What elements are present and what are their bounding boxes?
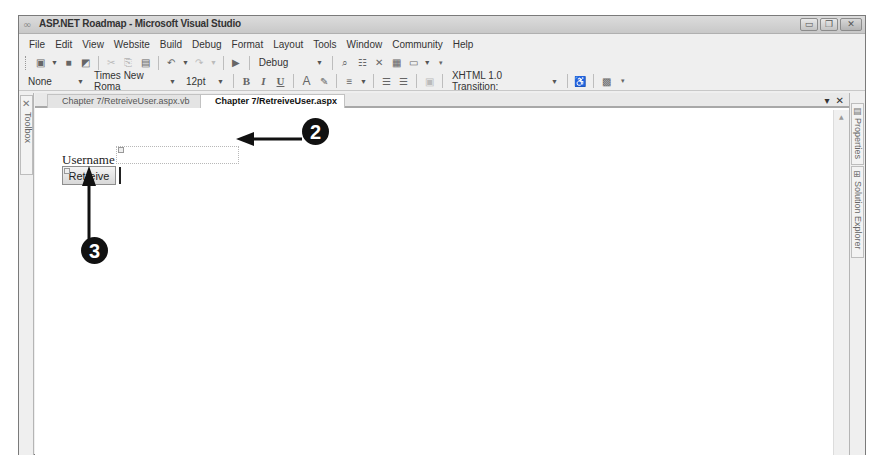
block-format-value: None <box>28 76 52 87</box>
menu-file[interactable]: File <box>29 39 45 50</box>
separator <box>98 56 99 70</box>
close-tab-icon[interactable]: ✕ <box>836 95 844 106</box>
properties-tab[interactable]: ▤ Properties <box>851 103 864 165</box>
properties-icon[interactable]: ☷ <box>356 56 369 69</box>
chevron-down-icon: ▼ <box>316 59 323 66</box>
solution-explorer-tab[interactable]: ⊞ Solution Explorer <box>851 166 864 258</box>
chevron-down-icon[interactable]: ▼ <box>51 59 58 66</box>
document-area: Chapter 7/RetreiveUser.aspx.vb Chapter 7… <box>35 93 850 455</box>
new-project-icon[interactable]: ▣ <box>34 56 47 69</box>
retrieve-button-label: Retreive <box>69 170 110 182</box>
numbered-list-icon[interactable]: ☰ <box>397 75 410 88</box>
scroll-up-icon[interactable]: ▲ <box>839 113 844 120</box>
separator <box>373 74 374 88</box>
separator <box>332 56 333 70</box>
chevron-down-icon[interactable]: ▼ <box>360 78 367 85</box>
font-color-icon[interactable]: A <box>300 75 313 88</box>
minimize-button[interactable]: ▭ <box>800 18 818 31</box>
menu-help[interactable]: Help <box>453 39 474 50</box>
menu-community[interactable]: Community <box>392 39 443 50</box>
toolbox-icon[interactable]: ✕ <box>373 56 386 69</box>
block-format-dropdown[interactable]: None ▼ <box>25 74 87 88</box>
separator <box>336 74 337 88</box>
bold-button[interactable]: B <box>240 75 253 88</box>
toolbar-overflow-icon[interactable]: ▾ <box>435 56 448 69</box>
redo-icon[interactable]: ↷ <box>193 56 206 69</box>
solution-config-value: Debug <box>259 57 288 68</box>
separator <box>416 74 417 88</box>
italic-button[interactable]: I <box>257 75 270 88</box>
font-size-value: 12pt <box>186 76 205 87</box>
window-icon[interactable]: ▭ <box>407 56 420 69</box>
object-browser-icon[interactable]: ▦ <box>390 56 403 69</box>
right-dock-panel: ▤ Properties ⊞ Solution Explorer <box>849 93 865 455</box>
solution-explorer-icon: ⊞ <box>853 169 861 179</box>
separator <box>293 74 294 88</box>
chevron-down-icon: ▼ <box>217 78 224 85</box>
document-tabstrip: Chapter 7/RetreiveUser.aspx.vb Chapter 7… <box>35 93 850 108</box>
username-textbox[interactable] <box>116 146 239 164</box>
separator <box>158 56 159 70</box>
separator <box>567 74 568 88</box>
toolbar-grip[interactable] <box>25 56 28 70</box>
properties-label: Properties <box>853 118 863 159</box>
undo-icon[interactable]: ↶ <box>165 56 178 69</box>
tab-retrieveuser-aspx[interactable]: Chapter 7/RetreiveUser.aspx <box>200 94 345 108</box>
check-accessibility-icon[interactable]: ♿ <box>574 75 587 88</box>
retrieve-button[interactable]: Retreive <box>62 166 116 185</box>
paste-icon[interactable]: ▤ <box>139 56 152 69</box>
separator <box>223 56 224 70</box>
underline-button[interactable]: U <box>274 75 287 88</box>
separator <box>233 74 234 88</box>
font-size-dropdown[interactable]: 12pt ▼ <box>183 74 227 88</box>
formatting-toolbar: None ▼ Times New Roma ▼ 12pt ▼ B I U A ✎… <box>19 72 865 91</box>
chevron-down-icon[interactable]: ▼ <box>210 59 217 66</box>
callout-step-3: 3 <box>81 237 108 264</box>
font-name-dropdown[interactable]: Times New Roma ▼ <box>91 74 179 88</box>
callout-step-2: 2 <box>302 118 329 145</box>
bullet-list-icon[interactable]: ☰ <box>380 75 393 88</box>
close-button[interactable]: ✕ <box>840 18 862 31</box>
menu-debug[interactable]: Debug <box>192 39 221 50</box>
highlight-icon[interactable]: ✎ <box>317 75 330 88</box>
design-surface[interactable]: Username Retreive <box>35 110 833 455</box>
tab-list-dropdown-icon[interactable]: ▾ <box>825 95 830 106</box>
menu-build[interactable]: Build <box>160 39 182 50</box>
menu-format[interactable]: Format <box>232 39 264 50</box>
menu-layout[interactable]: Layout <box>273 39 303 50</box>
validate-icon[interactable]: ▩ <box>600 75 613 88</box>
copy-icon[interactable]: ⎘ <box>122 56 135 69</box>
menu-website[interactable]: Website <box>114 39 150 50</box>
solution-config-dropdown[interactable]: Debug ▼ <box>256 56 326 70</box>
chevron-down-icon: ▼ <box>77 78 84 85</box>
vs-window: ∞ ASP.NET Roadmap - Microsoft Visual Stu… <box>18 15 866 455</box>
chevron-down-icon[interactable]: ▼ <box>424 59 431 66</box>
maximize-button[interactable]: ❐ <box>820 18 838 31</box>
save-icon[interactable]: ■ <box>62 56 75 69</box>
text-caret <box>119 167 121 184</box>
control-glyph-icon <box>64 168 70 174</box>
tab-retrieveuser-vb[interactable]: Chapter 7/RetreiveUser.aspx.vb <box>47 94 202 108</box>
cut-icon[interactable]: ✂ <box>105 56 118 69</box>
menu-window[interactable]: Window <box>347 39 383 50</box>
menu-view[interactable]: View <box>82 39 104 50</box>
chevron-down-icon[interactable]: ▼ <box>182 59 189 66</box>
save-all-icon[interactable]: ◩ <box>79 56 92 69</box>
style-icon[interactable]: ▣ <box>423 75 436 88</box>
doctype-value: XHTML 1.0 Transition: <box>452 70 551 92</box>
start-debug-icon[interactable]: ▶ <box>230 56 243 69</box>
find-icon[interactable]: ⌕ <box>339 56 352 69</box>
toolbox-label: Toolbox <box>23 112 33 143</box>
toolbar-overflow-icon[interactable]: ▾ <box>617 75 630 88</box>
title-bar: ∞ ASP.NET Roadmap - Microsoft Visual Stu… <box>19 16 865 34</box>
doctype-dropdown[interactable]: XHTML 1.0 Transition: ▼ <box>449 74 561 88</box>
menu-edit[interactable]: Edit <box>55 39 72 50</box>
vertical-scrollbar[interactable]: ▲ <box>833 110 850 455</box>
align-icon[interactable]: ≡ <box>343 75 356 88</box>
menu-tools[interactable]: Tools <box>313 39 336 50</box>
control-glyph-icon <box>118 147 124 153</box>
chevron-down-icon: ▼ <box>169 78 176 85</box>
separator <box>593 74 594 88</box>
toolbox-tab[interactable]: ✕ Toolbox <box>20 95 33 175</box>
properties-icon: ▤ <box>853 106 862 116</box>
